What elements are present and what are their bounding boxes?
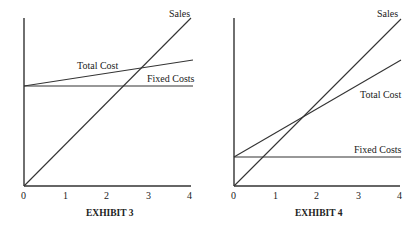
x-tick-3: 3 [146,190,151,201]
x-tick-1: 1 [63,190,68,201]
total-cost-label: Total Cost [77,60,118,71]
total-cost-line [234,60,401,157]
x-tick-1: 1 [273,190,278,201]
exhibits-figure: Sales Total Cost Fixed Costs 0 1 2 3 4 E… [0,0,418,226]
sales-line [234,19,401,186]
sales-line [24,18,191,186]
x-tick-4: 4 [397,190,402,201]
exhibit-4-caption: EXHIBIT 4 [295,208,343,218]
exhibit-3-chart: Sales Total Cost Fixed Costs 0 1 2 3 4 E… [21,8,195,218]
fixed-costs-label: Fixed Costs [354,144,402,155]
x-tick-2: 2 [314,190,319,201]
exhibit-3-caption: EXHIBIT 3 [86,208,134,218]
x-tick-3: 3 [356,190,361,201]
total-cost-label: Total Cost [360,89,401,100]
fixed-costs-label: Fixed Costs [147,73,195,84]
sales-label: Sales [377,8,398,19]
exhibit-4-chart: Sales Total Cost Fixed Costs 0 1 2 3 4 E… [231,8,402,218]
x-tick-4: 4 [187,190,192,201]
x-tick-0: 0 [21,190,26,201]
x-tick-2: 2 [104,190,109,201]
sales-label: Sales [169,8,190,19]
x-tick-0: 0 [231,190,236,201]
